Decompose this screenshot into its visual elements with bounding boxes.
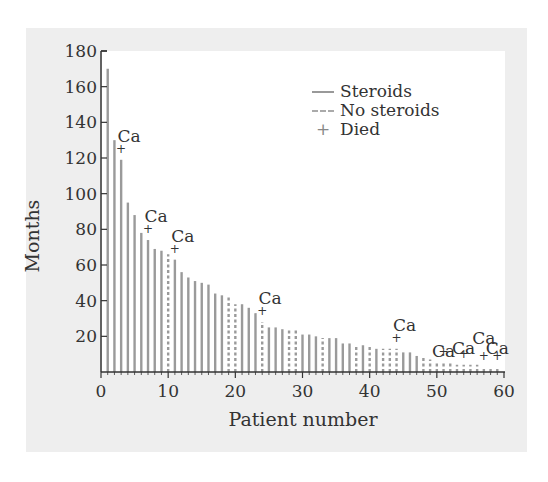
plus-icon: + bbox=[312, 120, 334, 139]
x-tick-label: 50 bbox=[426, 381, 448, 401]
x-axis-label: Patient number bbox=[228, 408, 377, 430]
x-tick-label: 0 bbox=[96, 381, 107, 401]
ca-annotation: Ca bbox=[393, 315, 416, 335]
y-tick-label: 40 bbox=[75, 291, 97, 311]
ca-annotation: Ca bbox=[144, 206, 167, 226]
y-tick-label: 140 bbox=[65, 112, 97, 132]
x-tick-label: 30 bbox=[292, 381, 314, 401]
y-tick-label: 160 bbox=[65, 77, 97, 97]
ca-annotation: Ca bbox=[171, 226, 194, 246]
legend: Steroids No steroids + Died bbox=[312, 82, 440, 139]
x-tick-label: 20 bbox=[225, 381, 247, 401]
x-tick-label: 60 bbox=[493, 381, 515, 401]
ca-annotation: Ca bbox=[259, 288, 282, 308]
y-tick-label: 20 bbox=[75, 326, 97, 346]
solid-line-icon bbox=[312, 91, 334, 93]
legend-item-steroids: Steroids bbox=[312, 82, 440, 101]
ca-annotation: Ca bbox=[486, 338, 509, 358]
y-tick-label: 60 bbox=[75, 255, 97, 275]
y-tick-label: 100 bbox=[65, 184, 97, 204]
y-tick-label: 80 bbox=[75, 219, 97, 239]
ca-annotation: Ca bbox=[118, 126, 141, 146]
y-tick-label: 180 bbox=[65, 41, 97, 61]
x-tick-label: 10 bbox=[157, 381, 179, 401]
x-tick-label: 40 bbox=[359, 381, 381, 401]
y-tick-label: 120 bbox=[65, 148, 97, 168]
dashed-line-icon bbox=[312, 110, 334, 112]
legend-item-died: + Died bbox=[312, 120, 440, 139]
legend-item-no-steroids: No steroids bbox=[312, 101, 440, 120]
